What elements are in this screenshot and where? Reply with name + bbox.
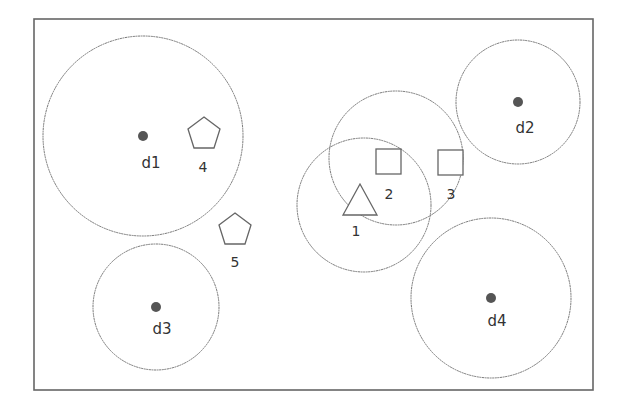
node-5-label: 5 <box>231 254 240 270</box>
depot-d4-point-icon <box>486 293 496 303</box>
depot-d4-label: d4 <box>487 312 506 330</box>
depot-d3-label: d3 <box>152 320 171 338</box>
square-icon <box>438 150 463 175</box>
depot-d2-point-icon <box>513 97 523 107</box>
depot-d1-label: d1 <box>141 154 160 172</box>
node-3-label: 3 <box>447 186 456 202</box>
triangle-icon <box>343 184 377 215</box>
node-2-label: 2 <box>385 186 394 202</box>
depot-d2-label: d2 <box>515 119 534 137</box>
depot-d3-point-icon <box>151 302 161 312</box>
depot-d1-point-icon <box>138 131 148 141</box>
node-1-label: 1 <box>352 223 361 239</box>
diagram-frame <box>34 19 593 390</box>
pentagon-icon <box>219 213 251 244</box>
pentagon-icon <box>188 117 220 148</box>
diagram-canvas: d1 d2 d3 d4 1 2 3 4 5 <box>0 0 627 409</box>
square-icon <box>376 149 401 174</box>
node-4-label: 4 <box>199 159 208 175</box>
